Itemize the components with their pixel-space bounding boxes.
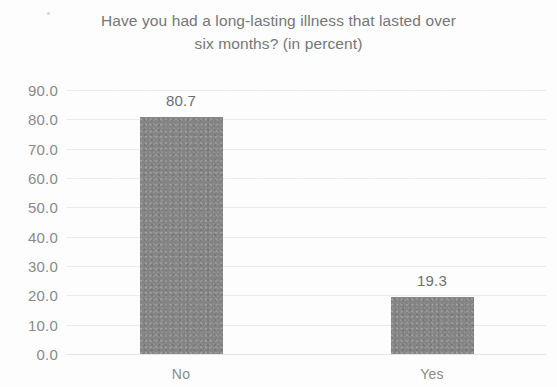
x-axis-category-label: Yes xyxy=(372,366,492,382)
bar-no[interactable] xyxy=(140,117,223,354)
bar-yes[interactable] xyxy=(391,297,474,354)
gridline xyxy=(66,266,546,267)
gridline xyxy=(66,149,546,150)
y-axis-tick-label: 20.0 xyxy=(0,287,58,304)
y-axis-tick-label: 80.0 xyxy=(0,111,58,128)
plot-area: 90.080.070.060.050.040.030.020.010.00.08… xyxy=(66,90,546,354)
y-axis-tick-label: 30.0 xyxy=(0,258,58,275)
gridline xyxy=(66,207,546,208)
x-axis-category-label: No xyxy=(121,366,241,382)
bar-value-label: 80.7 xyxy=(126,92,236,109)
gridline xyxy=(66,325,546,326)
gridline xyxy=(66,90,546,91)
y-axis-tick-label: 60.0 xyxy=(0,170,58,187)
y-axis-tick-label: 70.0 xyxy=(0,140,58,157)
y-axis-tick-label: 40.0 xyxy=(0,228,58,245)
gridline xyxy=(66,295,546,296)
bar-chart: Have you had a long-lasting illness that… xyxy=(0,0,557,387)
y-axis-tick-label: 0.0 xyxy=(0,346,58,363)
gridline xyxy=(66,119,546,120)
bar-value-label: 19.3 xyxy=(377,272,487,289)
y-axis-tick-label: 50.0 xyxy=(0,199,58,216)
y-axis-tick-label: 10.0 xyxy=(0,316,58,333)
gridline xyxy=(66,178,546,179)
gridline xyxy=(66,237,546,238)
chart-title: Have you had a long-lasting illness that… xyxy=(40,9,517,55)
y-axis-tick-label: 90.0 xyxy=(0,82,58,99)
gridline xyxy=(66,354,546,355)
